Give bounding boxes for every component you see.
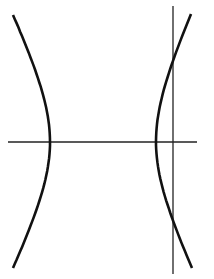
right-hyperbola-branch [156,14,192,268]
hyperbola-diagram [0,0,214,279]
